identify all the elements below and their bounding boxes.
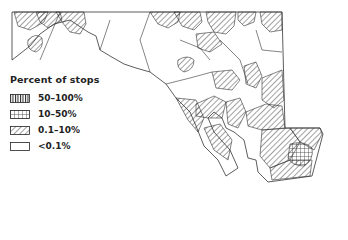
legend-label: <0.1% [38,141,71,151]
legend-title: Percent of stops [10,74,100,85]
legend-item-less-0-1: <0.1% [10,139,100,153]
legend-label: 0.1–10% [38,125,80,135]
vertical-lines-swatch-icon [10,94,30,103]
legend-item-50-100: 50–100% [10,91,100,105]
grid-swatch-icon [10,110,30,119]
legend-item-10-50: 10–50% [10,107,100,121]
map-legend: Percent of stops 50–100% 10–50% 0.1–10% … [10,74,100,155]
legend-label: 50–100% [38,93,83,103]
empty-swatch-icon [10,142,30,151]
region-10-50-percent [288,143,312,166]
legend-item-0-1-10: 0.1–10% [10,123,100,137]
diagonal-lines-swatch-icon [10,126,30,135]
legend-label: 10–50% [38,109,77,119]
